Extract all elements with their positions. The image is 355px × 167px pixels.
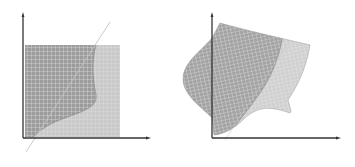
right-x-axis-arrow-icon xyxy=(336,137,341,140)
right-panel xyxy=(175,12,341,140)
left-y-axis-arrow-icon xyxy=(22,12,25,17)
left-grid-region xyxy=(25,45,120,137)
right-y-axis-arrow-icon xyxy=(211,12,214,17)
right-warped-region xyxy=(175,15,315,140)
figure-canvas xyxy=(0,0,355,167)
left-x-axis-arrow-icon xyxy=(146,137,151,140)
left-panel xyxy=(22,12,151,152)
